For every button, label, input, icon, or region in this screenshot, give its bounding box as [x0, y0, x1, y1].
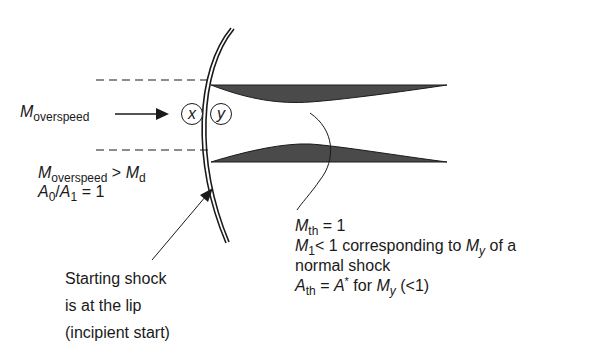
shock-annotation-line-1: Starting shock: [65, 265, 170, 292]
throat-area-equals: =: [316, 277, 334, 294]
shock-leader-line: [152, 196, 206, 260]
inlet-mach-line: M1< 1 corresponding to My of a: [295, 236, 516, 256]
normal-shock-line: normal shock: [295, 256, 516, 276]
throat-mach-value: = 1: [318, 217, 345, 234]
inlet-mach-symbol: M: [295, 237, 308, 254]
starting-shock-annotation: Starting shock is at the lip (incipient …: [65, 265, 170, 346]
freestream-mach-subscript: overspeed: [33, 110, 89, 124]
inlet-mach-text-end: of a: [485, 237, 516, 254]
throat-annotation: Mth = 1 M1< 1 corresponding to My of a n…: [295, 216, 516, 296]
throat-mach-line: Mth = 1: [295, 216, 516, 236]
overspeed-condition-label: Moverspeed > Md: [38, 163, 146, 182]
my-symbol-2: M: [376, 277, 389, 294]
freestream-mach-label: Moverspeed: [20, 102, 89, 121]
throat-area-for-text: for: [349, 277, 377, 294]
upper-cowl: [211, 85, 447, 102]
area-a1-subscript: 1: [70, 190, 77, 204]
throat-area-subscript: th: [306, 284, 316, 298]
throat-area-line: Ath = A* for My (<1): [295, 276, 516, 296]
shock-annotation-line-2: is at the lip: [65, 292, 170, 319]
area-a0-symbol: A: [38, 183, 49, 200]
design-mach-symbol: M: [126, 164, 139, 181]
area-a1-symbol: A: [60, 183, 71, 200]
critical-area-symbol: A: [334, 277, 345, 294]
area-ratio-label: A0/A1 = 1: [38, 182, 104, 201]
my-symbol: M: [466, 237, 479, 254]
throat-area-symbol: A: [295, 277, 306, 294]
station-x-marker: x: [181, 103, 203, 125]
lower-cowl: [211, 144, 447, 162]
arrow-right-icon: [156, 108, 169, 120]
throat-mach-symbol: M: [295, 217, 308, 234]
shock-annotation-line-3: (incipient start): [65, 319, 170, 346]
design-mach-subscript: d: [139, 171, 146, 185]
overspeed-symbol: M: [38, 164, 51, 181]
starting-shock-curve: [206, 29, 234, 242]
throat-area-condition: (<1): [396, 277, 429, 294]
freestream-mach-symbol: M: [20, 103, 33, 120]
inlet-mach-text: < 1 corresponding to: [315, 237, 466, 254]
greater-than-operator: >: [112, 164, 121, 181]
area-ratio-value: = 1: [82, 183, 105, 200]
station-y-marker: y: [210, 103, 232, 125]
